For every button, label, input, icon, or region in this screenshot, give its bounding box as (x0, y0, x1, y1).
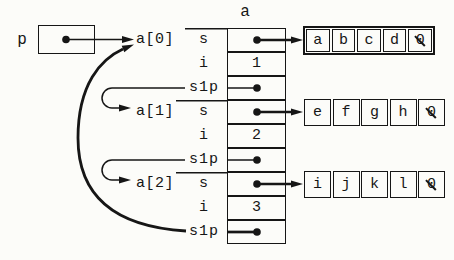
char-cell: j (333, 171, 360, 198)
nul-glyph: 0 (427, 104, 436, 121)
s1p-loop-arrowhead (122, 45, 134, 53)
s1p-loop-to-a0 (78, 49, 186, 231)
row-separator (228, 171, 285, 173)
char-cell: l (390, 171, 417, 198)
field-label-s: s (182, 175, 226, 193)
index-label-a1: a[1] (136, 103, 182, 121)
row-separator (228, 147, 285, 149)
char-cell: g (361, 99, 388, 126)
char-cell: i (304, 171, 331, 198)
field-label-i: i (182, 55, 226, 73)
index-label-a0: a[0] (136, 31, 182, 49)
field-label-s: s (182, 103, 226, 121)
s1p-curve-to-a2-arrowhead (119, 177, 131, 184)
field-label-s1p: s1p (182, 79, 226, 97)
nul-glyph: 0 (427, 176, 436, 193)
field-label-s1p: s1p (182, 151, 226, 169)
p-pointer-box (38, 25, 95, 54)
char-cell: e (304, 99, 331, 126)
nul-glyph: 0 (416, 32, 425, 49)
string-array-abcd: a b c d 0 (303, 26, 435, 55)
p-arrowhead (122, 36, 134, 43)
char-cell: f (333, 99, 360, 126)
p-variable-label: p (12, 31, 32, 49)
char-cell: c (357, 29, 381, 52)
diagram-canvas: p a a[0] a[1] a[2] s i s1p s i s1p s i s… (0, 0, 454, 260)
row-separator (228, 219, 285, 221)
row-separator (228, 195, 285, 197)
field-label-s: s (182, 31, 226, 49)
char-cell: d (383, 29, 407, 52)
field-label-s1p: s1p (182, 223, 226, 241)
char-cell: b (332, 29, 356, 52)
s1p-curve-to-a1-arrowhead (119, 105, 131, 112)
char-cell: h (390, 99, 417, 126)
int-value-2: 2 (228, 127, 285, 145)
nul-terminator-cell: 0 (418, 99, 445, 126)
string-array-efgh: e f g h 0 (304, 99, 445, 126)
s-arrowhead-2 (291, 181, 303, 188)
char-cell: a (306, 29, 330, 52)
array-title: a (235, 3, 255, 21)
int-value-3: 3 (228, 199, 285, 217)
row-separator (228, 99, 285, 101)
nul-terminator-cell: 0 (408, 29, 432, 52)
field-label-i: i (182, 127, 226, 145)
field-label-i: i (182, 199, 226, 217)
s-arrowhead-0 (291, 37, 303, 44)
nul-terminator-cell: 0 (418, 171, 445, 198)
index-label-a2: a[2] (136, 175, 182, 193)
s-arrowhead-1 (291, 109, 303, 116)
char-cell: k (361, 171, 388, 198)
row-separator (228, 51, 285, 53)
row-separator (228, 123, 285, 125)
row-separator (228, 75, 285, 77)
int-value-1: 1 (228, 55, 285, 73)
string-array-ijkl: i j k l 0 (304, 171, 445, 198)
